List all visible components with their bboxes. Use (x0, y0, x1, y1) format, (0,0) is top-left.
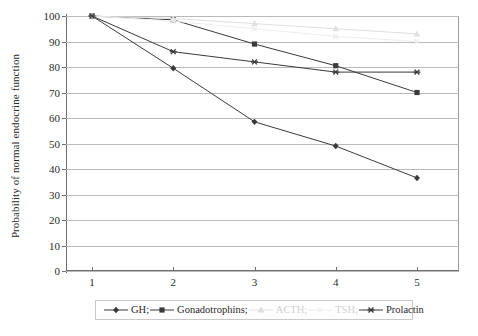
gridline (66, 271, 459, 272)
legend-label: Prolactin (386, 305, 424, 316)
plot-area: 0102030405060708090100 12345 (66, 16, 459, 271)
y-axis-tick-mark (62, 271, 66, 272)
square-marker (333, 63, 338, 68)
series-line (92, 16, 417, 93)
chart-legend: GH;Gonadotrophins;ACTH;TSH;Prolactin (95, 300, 413, 320)
series-lines (66, 16, 459, 271)
y-axis-tick-label: 90 (24, 36, 66, 48)
diamond-marker (414, 175, 420, 181)
x-axis-tick-label: 1 (89, 276, 95, 288)
x-axis-tick-label: 4 (333, 276, 339, 288)
diamond-marker (170, 65, 176, 71)
asterisk-marker (367, 308, 374, 313)
diamond-marker (333, 143, 339, 149)
y-axis-tick-label: 10 (24, 240, 66, 252)
triangle-legend-icon (248, 304, 274, 316)
diamond-marker (113, 307, 119, 313)
square-marker (159, 307, 164, 312)
square-marker (414, 90, 419, 95)
asterisk-marker (251, 59, 258, 64)
legend-item-tsh[interactable]: TSH; (307, 304, 358, 316)
asterisk-marker (170, 49, 177, 54)
y-axis-tick-label: 60 (24, 112, 66, 124)
legend-item-gh[interactable]: GH; (103, 304, 149, 316)
x-axis-tick-label: 3 (252, 276, 258, 288)
y-axis-tick-label: 30 (24, 189, 66, 201)
y-axis-tick-label: 0 (24, 265, 66, 277)
y-axis-tick-label: 40 (24, 163, 66, 175)
legend-item-prolactin[interactable]: Prolactin (358, 304, 424, 316)
cross-legend-icon (307, 304, 333, 316)
legend-item-acth[interactable]: ACTH; (248, 304, 308, 316)
series-acth (89, 13, 421, 37)
legend-label: Gonadotrophins; (177, 305, 248, 316)
asterisk-legend-icon (358, 304, 384, 316)
asterisk-marker (332, 70, 339, 75)
series-gh (89, 13, 420, 181)
asterisk-marker (414, 70, 421, 75)
square-marker (252, 41, 257, 46)
square-legend-icon (149, 304, 175, 316)
x-axis-tick-label: 2 (171, 276, 177, 288)
y-axis-title-text: Probability of normal endocrine function (9, 54, 21, 238)
y-axis-tick-label: 100 (24, 10, 66, 22)
legend-label: ACTH; (276, 305, 308, 316)
y-axis-tick-label: 50 (24, 138, 66, 150)
legend-label: GH; (131, 305, 149, 316)
legend-item-gonadotrophins[interactable]: Gonadotrophins; (149, 304, 248, 316)
y-axis-tick-label: 70 (24, 87, 66, 99)
x-axis-tick-label: 5 (414, 276, 420, 288)
diamond-legend-icon (103, 304, 129, 316)
y-axis-tick-label: 20 (24, 214, 66, 226)
chart-figure: Probability of normal endocrine function… (0, 0, 478, 336)
diamond-marker (252, 119, 258, 125)
y-axis-tick-label: 80 (24, 61, 66, 73)
series-line (92, 16, 417, 178)
legend-label: TSH; (335, 305, 358, 316)
